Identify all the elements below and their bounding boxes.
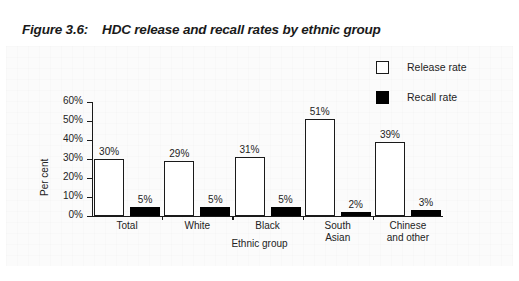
x-axis-category-label: Total [117,220,138,232]
y-tick-40: 40% [87,140,92,141]
y-axis-title: Per cent [39,159,50,196]
bar-group-south-asian: 51%2%SouthAsian [305,102,371,216]
x-axis-category-label: SouthAsian [325,220,351,244]
bar-group-black: 31%5%Black [235,102,301,216]
y-axis-line [92,102,93,216]
y-tick-label-60: 60% [63,95,83,106]
bar-value-label: 2% [348,199,362,210]
x-axis-category-label: Chineseand other [387,220,429,244]
figure-title-text: HDC release and recall rates by ethnic g… [102,22,381,37]
y-tick-label-0: 0% [69,209,83,220]
bar-recall-total[interactable]: 5% [130,207,160,217]
bar-value-label: 5% [278,194,292,205]
figure-title: Figure 3.6: HDC release and recall rates… [22,20,381,38]
bar-release-white[interactable]: 29% [164,161,194,216]
y-tick-label-30: 30% [63,152,83,163]
y-tick-label-40: 40% [63,133,83,144]
bar-value-label: 39% [380,129,400,140]
bar-recall-white[interactable]: 5% [200,207,230,217]
x-tick-3 [303,216,304,220]
legend-label-release: Release rate [407,61,467,73]
y-tick-label-50: 50% [63,114,83,125]
x-tick-4 [373,216,374,220]
chart-panel: Release rate Recall rate Per cent Ethnic… [6,46,513,266]
x-axis-title: Ethnic group [6,238,513,249]
y-tick-0: 0% [87,216,92,217]
bar-group-white: 29%5%White [164,102,230,216]
bar-release-black[interactable]: 31% [235,157,265,216]
x-axis-line [92,216,443,217]
x-axis-category-label: White [185,220,211,232]
y-tick-30: 30% [87,159,92,160]
y-tick-label-20: 20% [63,171,83,182]
y-tick-20: 20% [87,178,92,179]
bar-value-label: 29% [169,148,189,159]
bar-release-chinese-and-other[interactable]: 39% [375,142,405,216]
bar-value-label: 3% [419,197,433,208]
x-tick-2 [232,216,233,220]
bar-value-label: 31% [239,144,259,155]
bar-recall-black[interactable]: 5% [271,207,301,217]
bar-recall-chinese-and-other[interactable]: 3% [411,210,441,216]
y-tick-label-10: 10% [63,190,83,201]
y-tick-50: 50% [87,121,92,122]
bar-release-south-asian[interactable]: 51% [305,119,335,216]
plot-area: 0%10%20%30%40%50%60% 30%5%Total29%5%Whit… [92,102,443,216]
y-tick-60: 60% [87,102,92,103]
bar-value-label: 5% [208,194,222,205]
bar-release-total[interactable]: 30% [94,159,124,216]
x-axis-category-label: Black [255,220,279,232]
x-tick-1 [162,216,163,220]
bar-group-total: 30%5%Total [94,102,160,216]
legend-item-release-rate: Release rate [376,60,467,74]
figure-number: Figure 3.6: [22,22,88,37]
bar-value-label: 51% [310,106,330,117]
y-tick-10: 10% [87,197,92,198]
bar-value-label: 30% [99,146,119,157]
bar-recall-south-asian[interactable]: 2% [341,212,371,216]
bar-group-chinese-and-other: 39%3%Chineseand other [375,102,441,216]
legend-swatch-release-icon [376,61,389,74]
bar-value-label: 5% [138,194,152,205]
